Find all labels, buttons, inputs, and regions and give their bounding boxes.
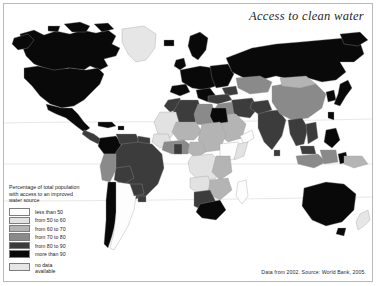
legend-swatch-more-than-90 [9, 250, 30, 257]
legend-label-less-than-50: less than 50 [35, 209, 63, 215]
region-sri-lanka [274, 150, 280, 156]
region-iceland [164, 40, 174, 46]
legend-title: Percentage of total population with acce… [9, 184, 83, 204]
legend-label-more-than-90: more than 90 [35, 251, 66, 257]
legend-swatch-50-to-60 [9, 217, 30, 224]
legend-label-70-to-80: from 70 to 80 [35, 234, 66, 240]
legend-item-no-data[interactable]: no data available [9, 262, 105, 270]
legend-item-80-to-90[interactable]: from 80 to 90 [9, 241, 105, 249]
legend-item-60-to-70[interactable]: from 60 to 70 [9, 225, 105, 233]
legend-item-50-to-60[interactable]: from 50 to 60 [9, 216, 105, 224]
legend-item-more-than-90[interactable]: more than 90 [9, 250, 105, 258]
legend-label-80-to-90: from 80 to 90 [35, 243, 66, 249]
region-korea [326, 90, 336, 102]
map-legend: Percentage of total population with acce… [9, 184, 105, 271]
page-title: Access to clean water [249, 9, 364, 24]
legend-swatch-no-data [9, 263, 30, 270]
legend-item-less-than-50[interactable]: less than 50 [9, 208, 105, 216]
legend-label-no-data: no data available [35, 262, 55, 274]
legend-entries: less than 50 from 50 to 60 from 60 to 70… [9, 208, 105, 271]
region-malaysia [300, 146, 316, 154]
legend-swatch-80-to-90 [9, 242, 30, 249]
region-ghana-togo [174, 144, 182, 154]
source-note: Data from 2002. Source: World Bank, 2005… [261, 269, 366, 275]
legend-swatch-70-to-80 [9, 233, 30, 240]
world-map-figure: Access to clean water Percentage of tota… [0, 0, 377, 286]
region-egypt [210, 108, 228, 124]
legend-label-50-to-60: from 50 to 60 [35, 217, 66, 223]
legend-item-70-to-80[interactable]: from 70 to 80 [9, 233, 105, 241]
legend-label-60-to-70: from 60 to 70 [35, 226, 66, 232]
legend-swatch-60-to-70 [9, 225, 30, 232]
legend-swatch-less-than-50 [9, 208, 30, 215]
